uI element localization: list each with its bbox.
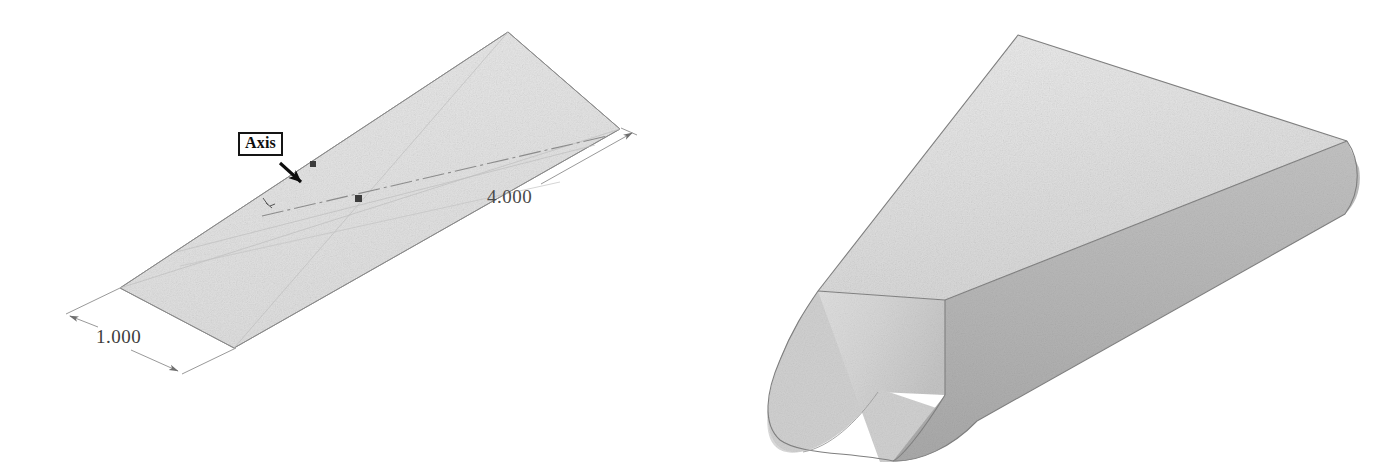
sketch-point-marker[interactable] — [310, 161, 316, 167]
witness-line-left — [66, 288, 120, 314]
sketch-plane — [120, 32, 620, 348]
length-dimension-text: 4.000 — [487, 186, 532, 208]
witness-line-right — [182, 348, 236, 374]
width-dimension-text: 1.000 — [96, 326, 141, 348]
revolved-solid-panel — [767, 35, 1360, 462]
sketch-plane-face — [120, 32, 620, 348]
sketch-point-marker[interactable] — [355, 195, 362, 202]
axis-sketch-panel — [66, 32, 637, 374]
witness-line-top — [621, 128, 637, 135]
axis-callout-label[interactable]: Axis — [238, 132, 283, 156]
dim-line-right — [131, 350, 178, 371]
dim-line-left — [70, 316, 98, 327]
figure-canvas: 4.000 1.000 Axis — [0, 0, 1387, 466]
illustration-svg — [0, 0, 1387, 466]
